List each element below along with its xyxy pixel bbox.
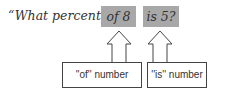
is-number-label: ''is'' number [147,62,207,88]
is-arrow-icon [148,31,172,62]
of-number-label: ''of'' number [62,62,142,88]
of-arrow-icon [107,31,131,62]
